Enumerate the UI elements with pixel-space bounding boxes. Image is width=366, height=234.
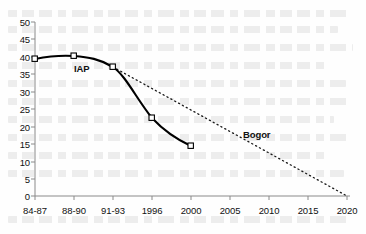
- data-point-84-87: [32, 56, 37, 61]
- data-point-1996: [149, 115, 154, 120]
- data-point-91-93: [110, 64, 115, 69]
- plot-area: [0, 0, 366, 234]
- data-point-88-90: [71, 53, 76, 58]
- chart-container: 50 45 40 35 30 25 20 15 10 5 0 84-87 88-…: [0, 0, 366, 234]
- series-line-bogor: [113, 67, 347, 196]
- y-axis-ticks: [31, 22, 35, 196]
- data-point-2000: [188, 143, 193, 148]
- x-axis-ticks: [35, 196, 347, 200]
